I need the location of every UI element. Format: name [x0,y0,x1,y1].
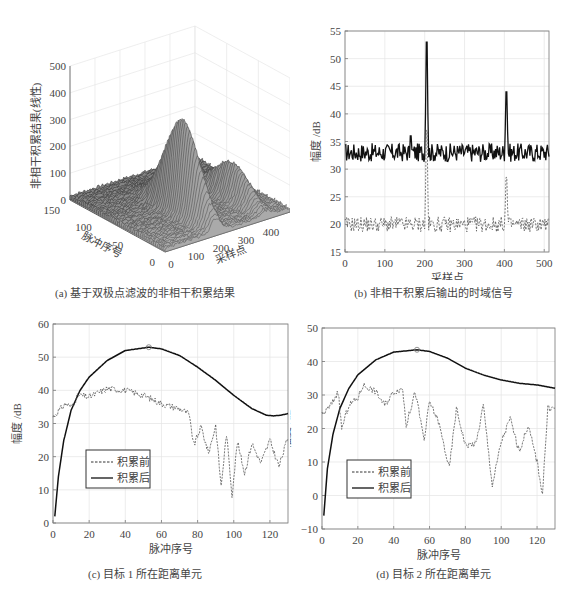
y-tick-label: 25 [330,191,342,203]
y-tick-label: 20 [38,451,50,463]
y-tick-label: 40 [38,384,50,396]
z-tick-label: 100 [50,167,67,179]
line-chart-d: 020406080100120−1001020304050脉冲序号幅度 /dB积… [290,300,577,560]
legend: 积累前积累后 [347,460,411,498]
x-tick-label: 120 [529,534,546,546]
x-tick-label: 100 [493,534,510,546]
x-tick-label: 200 [416,257,433,269]
line-chart-b: 0100200300400500152025303540455055采样点幅度 … [290,0,577,280]
x-axis-label: 脉冲序号 [417,548,461,560]
x-tick-label: 60 [156,528,168,540]
x-tick-label: 20 [352,534,364,546]
caption-a: (a) 基于双极点滤波的非相干积累结果 [0,284,290,300]
y-tick-label: 30 [38,418,50,430]
x-tick-label: 0 [319,534,325,546]
x-tick-label: 300 [456,257,473,269]
series-after-integration [345,42,549,162]
sample-tick-label: 400 [263,226,280,238]
surface-mesh [70,119,290,252]
x-axis-label: 采样点 [431,271,464,280]
y-tick-label: 15 [330,246,342,258]
y-tick-label: 35 [330,136,342,148]
sample-tick-label: 100 [188,250,205,262]
z-tick-label: 500 [50,60,67,72]
pulse-tick-label: 150 [44,204,61,216]
caption-c: (c) 目标 1 所在距离单元 [0,565,290,581]
x-tick-label: 20 [84,528,96,540]
x-tick-label: 40 [120,528,132,540]
y-tick-label: 40 [307,356,319,368]
y-tick-label: 0 [44,517,50,529]
y-tick-label: 30 [307,389,319,401]
y-tick-label: 20 [330,218,342,230]
z-axis-label: 非相干积累结果(线性) [29,83,43,190]
z-tick-label: 400 [50,87,67,99]
series-after-integration [55,347,288,516]
sample-tick-label: 0 [168,258,174,270]
y-tick-label: 60 [38,318,50,330]
x-tick-label: 0 [50,528,56,540]
legend-label-before: 积累前 [378,465,411,478]
x-axis-label: 脉冲序号 [149,542,193,555]
y-tick-label: 20 [307,423,319,435]
x-tick-label: 500 [536,257,553,269]
y-axis-label: 幅度 /dB [10,403,23,444]
x-tick-label: 120 [262,528,279,540]
legend: 积累前积累后 [86,450,150,488]
caption-b: (b) 非相干积累后输出的时域信号 [290,284,577,300]
x-tick-label: 80 [192,528,204,540]
x-tick-label: 100 [377,257,394,269]
z-tick-label: 200 [50,140,67,152]
y-tick-label: 50 [38,351,50,363]
y-tick-label: 0 [313,490,319,502]
line-chart-c: 0204060801001200102030405060脉冲序号幅度 /dB积累… [0,300,290,560]
y-tick-label: 10 [38,484,50,496]
caption-d: (d) 目标 2 所在距离单元 [290,565,577,581]
y-tick-label: 30 [330,163,342,175]
y-tick-label: −10 [301,523,319,535]
legend-label-after: 积累后 [117,472,150,484]
x-tick-label: 40 [388,534,400,546]
legend-label-after: 积累后 [378,482,411,494]
y-axis-label: 幅度 /dB [290,408,292,449]
y-tick-label: 55 [330,25,342,37]
x-tick-label: 0 [342,257,348,269]
panel-a-3d-surface: 01002003004005000501001500100200300400非相… [0,0,290,300]
panel-c-target1: 0204060801001200102030405060脉冲序号幅度 /dB积累… [0,300,290,601]
panel-b-time-signal: 0100200300400500152025303540455055采样点幅度 … [290,0,577,300]
pulse-tick-label: 0 [150,256,156,268]
x-tick-label: 400 [496,257,513,269]
y-axis-label: 幅度 /dB [309,121,322,162]
z-tick-label: 0 [61,194,67,206]
y-tick-label: 50 [307,322,319,334]
surface-plot: 01002003004005000501001500100200300400非相… [0,0,290,270]
x-tick-label: 80 [460,534,472,546]
x-tick-label: 60 [424,534,436,546]
panel-d-target2: 020406080100120−1001020304050脉冲序号幅度 /dB积… [290,300,577,601]
z-tick-label: 300 [50,114,67,126]
x-tick-label: 100 [226,528,243,540]
y-tick-label: 40 [330,108,342,120]
y-tick-label: 10 [307,456,319,468]
y-tick-label: 50 [330,53,342,65]
y-tick-label: 45 [330,80,342,92]
legend-label-before: 积累前 [117,455,150,468]
